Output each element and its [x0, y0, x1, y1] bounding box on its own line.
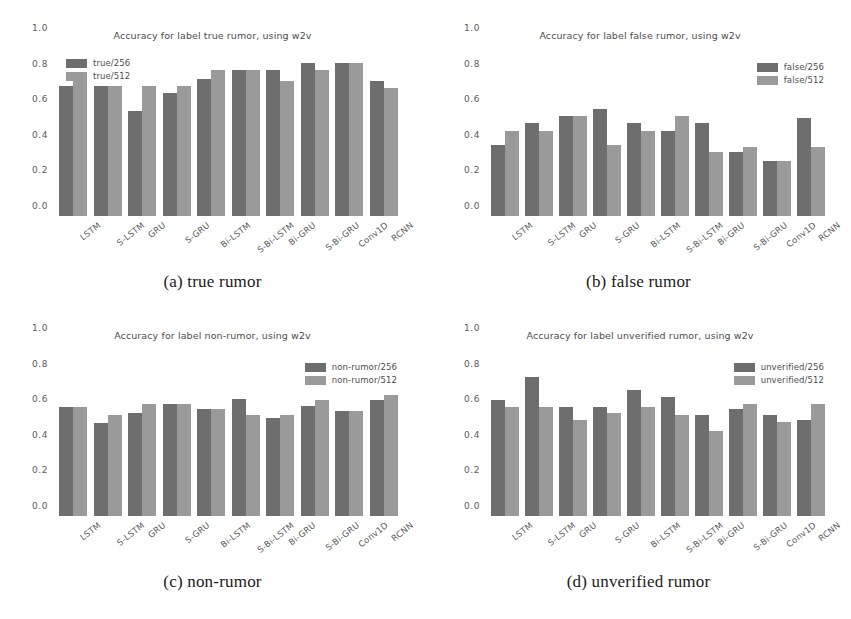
bar: [370, 81, 384, 216]
caption-d: (d) unverified rumor: [426, 572, 851, 592]
bar: [315, 70, 329, 216]
chart-a-xaxis: LSTMS-LSTMGRUS-GRUBi-LSTMS-Bi-LSTMBi-GRU…: [56, 216, 401, 272]
x-axis-tick-slot: Conv1D: [332, 216, 367, 272]
bar: [743, 404, 757, 516]
y-axis-tick: 0.2: [24, 465, 48, 475]
x-axis-tick-slot: Bi-GRU: [263, 516, 298, 572]
bar: [709, 431, 723, 516]
x-axis-tick-slot: S-Bi-LSTM: [658, 216, 692, 272]
y-axis-tick: 0.4: [456, 130, 480, 140]
x-axis-tick-label: RCNN: [389, 520, 415, 543]
bar: [695, 415, 709, 516]
x-axis-tick-label: RCNN: [389, 220, 415, 243]
x-axis-tick-slot: S-LSTM: [91, 516, 126, 572]
y-axis-tick: 0.0: [456, 501, 480, 511]
x-axis-tick-slot: S-Bi-LSTM: [658, 516, 692, 572]
caption-b: (b) false rumor: [426, 272, 851, 292]
x-axis-tick-slot: RCNN: [367, 216, 402, 272]
x-axis-tick-slot: Bi-LSTM: [624, 516, 658, 572]
y-axis-tick: 0.2: [456, 165, 480, 175]
chart-c-bars: [56, 338, 401, 516]
bar: [505, 407, 519, 516]
x-axis-tick-slot: LSTM: [488, 216, 522, 272]
bar: [349, 63, 363, 216]
y-axis-tick: 0.0: [456, 201, 480, 211]
bar: [607, 145, 621, 216]
bar-group: [590, 38, 624, 216]
chart-a: Accuracy for label true rumor, using w2v…: [0, 14, 425, 272]
bar: [709, 152, 723, 216]
bar: [94, 86, 108, 216]
bar-group: [794, 338, 828, 516]
bar-group: [760, 38, 794, 216]
bar: [280, 81, 294, 216]
y-axis-tick: 0.2: [24, 165, 48, 175]
chart-c: Accuracy for label non-rumor, using w2v …: [0, 314, 425, 572]
bar-group: [488, 338, 522, 516]
x-axis-tick-label: RCNN: [816, 220, 842, 243]
bar: [384, 395, 398, 516]
x-axis-tick-slot: LSTM: [488, 516, 522, 572]
x-axis-tick-slot: S-Bi-GRU: [298, 216, 333, 272]
bar-group: [522, 338, 556, 516]
bar: [349, 411, 363, 516]
chart-d-bars: [488, 338, 828, 516]
bar: [246, 415, 260, 516]
bar: [59, 407, 73, 516]
x-axis-tick-slot: GRU: [125, 516, 160, 572]
bar: [266, 70, 280, 216]
bar-group: [556, 338, 590, 516]
chart-c-xaxis: LSTMS-LSTMGRUS-GRUBi-LSTMS-Bi-LSTMBi-GRU…: [56, 516, 401, 572]
bar: [128, 111, 142, 216]
y-axis-tick: 1.0: [24, 323, 48, 333]
bar: [232, 70, 246, 216]
x-axis-tick-slot: Conv1D: [760, 216, 794, 272]
bar: [777, 161, 791, 216]
bar: [108, 415, 122, 516]
chart-b-xaxis: LSTMS-LSTMGRUS-GRUBi-LSTMS-Bi-LSTMBi-GRU…: [488, 216, 828, 272]
bar-group: [229, 38, 264, 216]
bar: [641, 407, 655, 516]
panel-b: Accuracy for label false rumor, using w2…: [426, 14, 851, 314]
x-axis-tick-slot: Bi-GRU: [263, 216, 298, 272]
bar: [163, 93, 177, 216]
bar: [627, 123, 641, 216]
bar-group: [125, 338, 160, 516]
bar: [675, 116, 689, 216]
caption-a: (a) true rumor: [0, 272, 425, 292]
bar: [661, 397, 675, 516]
bar: [128, 413, 142, 516]
bar: [59, 86, 73, 216]
bar: [505, 131, 519, 216]
x-axis-tick-slot: S-LSTM: [522, 216, 556, 272]
bar-group: [332, 38, 367, 216]
y-axis-tick: 0.6: [24, 394, 48, 404]
x-axis-tick-slot: Bi-LSTM: [194, 216, 229, 272]
bar: [177, 404, 191, 516]
bar: [763, 415, 777, 516]
panel-c: Accuracy for label non-rumor, using w2v …: [0, 314, 425, 614]
bar: [525, 377, 539, 516]
bar: [675, 415, 689, 516]
panel-d: Accuracy for label unverified rumor, usi…: [426, 314, 851, 614]
bar: [197, 409, 211, 516]
x-axis-tick-slot: S-GRU: [590, 216, 624, 272]
bar: [661, 131, 675, 216]
y-axis-tick: 0.8: [24, 59, 48, 69]
bar-group: [332, 338, 367, 516]
bar-group: [658, 338, 692, 516]
y-axis-tick: 1.0: [456, 23, 480, 33]
x-axis-tick-slot: RCNN: [367, 516, 402, 572]
bar: [559, 407, 573, 516]
bar-group: [692, 38, 726, 216]
x-axis-tick-slot: S-Bi-LSTM: [229, 516, 264, 572]
bar: [811, 147, 825, 216]
bar: [211, 70, 225, 216]
figure-grid: Accuracy for label true rumor, using w2v…: [0, 14, 851, 614]
bar: [743, 147, 757, 216]
chart-c-plot: non-rumor/256 non-rumor/512 LSTMS-LSTMGR…: [56, 338, 401, 516]
bar-group: [263, 38, 298, 216]
bar: [266, 418, 280, 516]
bar: [641, 131, 655, 216]
y-axis-tick: 0.4: [24, 130, 48, 140]
